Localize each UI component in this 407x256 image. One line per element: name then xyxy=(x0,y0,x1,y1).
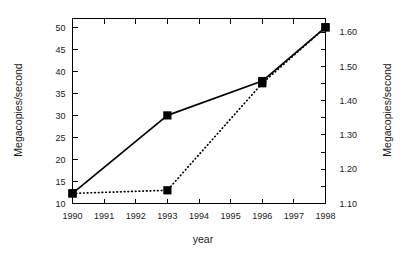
x-axis-title: year xyxy=(193,233,214,245)
left-tick-label: 40 xyxy=(55,67,65,77)
left-tick-label: 25 xyxy=(55,133,65,143)
right-tick-label: 1.40 xyxy=(340,96,358,106)
left-axis-tick-labels: 101520253035404550 xyxy=(55,23,65,209)
x-tick-label: 1998 xyxy=(315,211,335,221)
x-tick-label: 1991 xyxy=(94,211,114,221)
left-tick-label: 15 xyxy=(55,177,65,187)
x-tick-label: 1996 xyxy=(252,211,272,221)
line-chart: 101520253035404550 1.101.201.301.401.501… xyxy=(0,0,407,256)
x-tick-label: 1995 xyxy=(221,211,241,221)
data-point-marker xyxy=(68,189,76,197)
y-axis-title: Megacopies/second xyxy=(12,63,24,157)
x-tick-label: 1994 xyxy=(189,211,209,221)
left-tick-label: 45 xyxy=(55,45,65,55)
chart-container: 101520253035404550 1.101.201.301.401.501… xyxy=(0,0,407,256)
data-point-marker xyxy=(321,23,329,31)
right-tick-label: 1.60 xyxy=(340,27,358,37)
left-tick-label: 35 xyxy=(55,89,65,99)
left-tick-label: 30 xyxy=(55,111,65,121)
x-axis-tick-labels: 199019911992199319941995199619971998 xyxy=(62,211,335,221)
x-tick-label: 1992 xyxy=(126,211,146,221)
x-tick-label: 1997 xyxy=(284,211,304,221)
y2-axis-title: Megacopies/second xyxy=(381,63,393,157)
x-tick-label: 1990 xyxy=(62,211,82,221)
left-tick-label: 50 xyxy=(55,23,65,33)
x-tick-label: 1993 xyxy=(157,211,177,221)
data-point-marker xyxy=(163,111,171,119)
right-tick-label: 1.20 xyxy=(340,164,358,174)
left-tick-label: 20 xyxy=(55,155,65,165)
data-point-marker xyxy=(163,186,171,194)
right-tick-label: 1.30 xyxy=(340,130,358,140)
right-tick-label: 1.10 xyxy=(340,199,358,209)
left-tick-label: 10 xyxy=(55,199,65,209)
right-tick-label: 1.50 xyxy=(340,62,358,72)
data-point-marker xyxy=(258,79,266,87)
